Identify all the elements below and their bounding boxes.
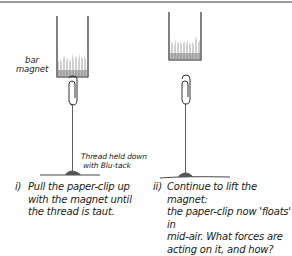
caption-ii-number: ii) xyxy=(153,181,162,194)
ground-right xyxy=(160,173,230,179)
caption-i-number: i) xyxy=(15,181,21,194)
ground-left xyxy=(40,171,100,176)
caption-ii-line-1: Continue to lift the magnet: xyxy=(167,181,292,206)
thread-label: Thread held down with Blu-tack xyxy=(81,153,147,170)
caption-i-line-1: Pull the paper-clip up xyxy=(28,181,143,194)
caption-panel-i: i) Pull the paper-clip up with the magne… xyxy=(15,181,143,219)
caption-i-line-2: with the magnet until xyxy=(28,194,143,207)
caption-ii-line-4: acting on it, and how? xyxy=(167,244,292,256)
bar-magnet-label: bar magnet xyxy=(14,56,50,74)
paper-clip-right xyxy=(182,75,190,104)
paper-clip-left xyxy=(69,76,77,105)
caption-panel-ii: ii) Continue to lift the magnet: the pap… xyxy=(153,181,292,256)
caption-ii-line-3: mid-air. What forces are xyxy=(167,231,292,244)
bar-magnet-right xyxy=(169,12,201,60)
thread-label-line-2: with Blu-tack xyxy=(81,162,147,171)
bar-magnet-left xyxy=(57,16,88,77)
caption-ii-line-2: the paper-clip now 'floats' in xyxy=(167,206,292,231)
bar-magnet-label-line-2: magnet xyxy=(14,65,50,74)
caption-i-line-3: the thread is taut. xyxy=(28,206,143,219)
